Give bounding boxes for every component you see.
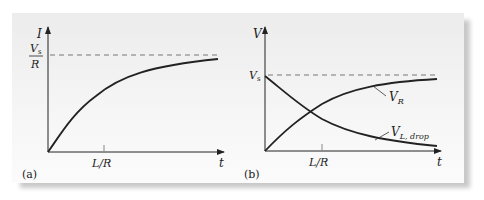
tick-label: L/R	[91, 157, 111, 170]
vl-drop-label: VL, drop	[391, 125, 429, 141]
asymptote-label: Vs	[249, 69, 261, 83]
x-axis-label: t	[437, 155, 442, 169]
vr-leader-line	[373, 86, 386, 96]
panel-b: V Vs VR VL, drop L/R t (b)	[244, 27, 442, 181]
panel-caption: (b)	[244, 168, 260, 181]
asymptote-numerator: Vs	[30, 42, 42, 56]
y-axis-label: I	[36, 27, 42, 41]
vr-label: VR	[389, 90, 404, 106]
asymptote-denominator: R	[30, 58, 39, 71]
tick-label: L/R	[308, 156, 328, 169]
current-curve	[48, 59, 218, 152]
y-axis-label: V	[253, 27, 263, 41]
rl-circuit-figure: I Vs R L/R t (a) V Vs VR VL, drop L/R t …	[0, 0, 484, 200]
panel-a: I Vs R L/R t (a)	[22, 27, 224, 181]
panel-caption: (a)	[22, 168, 37, 181]
x-axis-label: t	[219, 156, 224, 170]
